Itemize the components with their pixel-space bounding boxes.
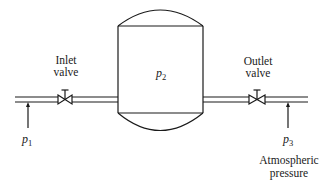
tank-bottom-dome [118,113,203,131]
tank-pressure-label: p2 [155,66,166,82]
inlet-pressure-arrow-icon [26,102,30,128]
inlet-valve-icon [58,90,72,104]
outlet-pipe [203,97,308,102]
inlet-valve-label-line2: valve [54,66,79,78]
tank-top-dome [118,10,203,26]
inlet-pressure-label: p1 [21,132,32,148]
outlet-valve-icon [249,90,265,104]
inlet-pipe [15,97,118,102]
atmospheric-note-line2: pressure [270,167,308,180]
inlet-valve-label-line1: Inlet [55,54,77,66]
outlet-valve-label-line1: Outlet [244,55,274,67]
tank-flow-diagram: p2 Inlet valve p1 Outlet valve p3 At [0,0,328,188]
outlet-pressure-label: p3 [282,132,293,148]
outlet-pressure-arrow-icon [286,102,290,128]
atmospheric-note-line1: Atmospheric [259,154,318,167]
outlet-valve-label-line2: valve [246,67,271,79]
